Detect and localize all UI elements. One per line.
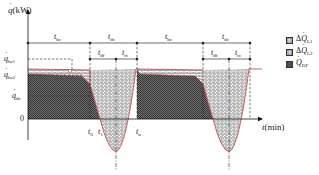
y-tick-qhc2: qhc2 — [4, 71, 15, 82]
crosshatch-pattern-swatch-icon — [286, 61, 293, 68]
y-tick-qdc: qdc — [12, 92, 21, 103]
x-tick-t0: t0 — [88, 128, 93, 139]
span-t-df-2: tdf — [211, 49, 217, 60]
x-axis-label: t(min) — [262, 123, 285, 131]
span-t-dc-2: tdc — [222, 33, 229, 44]
diagram-canvas — [0, 0, 319, 175]
x-tick-t1: t1 — [98, 128, 103, 139]
y-tick-zero: 0 — [20, 115, 24, 123]
span-t-hc-2: thc — [165, 33, 172, 44]
cycle-1 — [28, 69, 137, 152]
transition-point-marker — [68, 69, 71, 72]
legend-item-delta-ql1: ΔQL1 — [286, 35, 313, 45]
y-axis-label: q(kW) — [8, 6, 32, 14]
span-t-rc-2: trc — [235, 49, 241, 60]
span-t-df-1: tdf — [98, 49, 104, 60]
legend-item-qdf: QDF — [286, 59, 308, 69]
cycle-2 — [137, 69, 262, 152]
x-tick-tn: tn — [136, 128, 141, 139]
span-t-rc-1: trc — [122, 49, 128, 60]
brick-pattern-swatch-icon — [286, 37, 293, 44]
hexagon-pattern-swatch-icon — [286, 49, 293, 56]
span-t-hc-1: thc — [54, 33, 61, 44]
span-t-dc-1: tdc — [108, 33, 115, 44]
